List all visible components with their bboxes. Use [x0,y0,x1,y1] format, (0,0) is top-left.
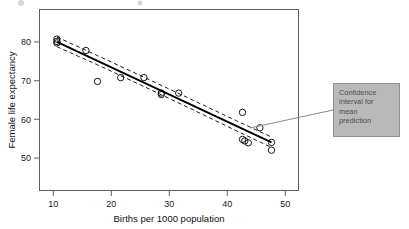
callout-leader-line [250,110,333,128]
callout-line-1: Confidence [339,88,399,97]
data-point [268,147,274,153]
data-point [94,78,100,84]
scatter-points [54,36,275,154]
x-tick-label-20: 20 [106,199,116,209]
confidence-interval-callout: Confidence interval for mean prediction [333,83,400,137]
y-axis-ticks [34,42,40,158]
callout-line-2: interval for [339,97,399,106]
callout-line-3: mean [339,107,399,116]
confidence-band-lower [57,47,272,148]
regression-scatter-figure: 80 70 60 50 10 20 30 40 50 Births per 10… [0,0,409,229]
y-tick-label-50: 50 [21,153,31,163]
data-point [239,109,245,115]
data-point [239,136,245,142]
data-point [141,74,147,80]
y-axis-title: Female life expectancy [6,51,17,148]
x-axis-title: Births per 1000 population [114,213,225,224]
x-tick-label-40: 40 [222,199,232,209]
x-tick-label-50: 50 [280,199,290,209]
x-axis-ticks [53,191,285,197]
scan-crop-marks [18,0,143,6]
callout-line-4: prediction [339,116,399,125]
plot-frame [40,10,299,191]
x-tick-label-10: 10 [48,199,58,209]
y-tick-label-80: 80 [21,37,31,47]
x-tick-label-30: 30 [164,199,174,209]
y-tick-label-70: 70 [21,76,31,86]
data-point [118,74,124,80]
y-tick-label-60: 60 [21,115,31,125]
